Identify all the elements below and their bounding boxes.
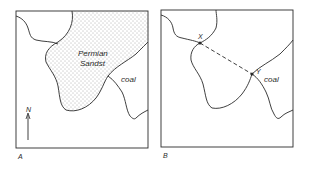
boundary-upper-left <box>16 16 58 44</box>
sandst-label: Sandst <box>80 59 106 68</box>
north-label: N <box>26 106 32 113</box>
geological-map-diagram: Permian Sandst coal N A X Y coal B <box>0 0 309 175</box>
point-y-label: Y <box>256 68 262 75</box>
coal-label-b: coal <box>264 75 279 84</box>
panel-b-label: B <box>163 152 168 159</box>
section-line-xy <box>200 43 252 74</box>
north-arrow-icon: N <box>26 106 32 140</box>
point-x-marker <box>198 41 201 44</box>
panel-a: Permian Sandst coal N A <box>16 11 148 160</box>
permian-label: Permian <box>78 49 108 58</box>
boundary-upper-left-b <box>161 10 217 43</box>
panel-b: X Y coal B <box>161 10 293 159</box>
point-y-marker <box>250 72 253 75</box>
point-x-label: X <box>197 33 203 40</box>
coal-label-a: coal <box>121 75 136 84</box>
panel-a-label: A <box>17 153 23 160</box>
